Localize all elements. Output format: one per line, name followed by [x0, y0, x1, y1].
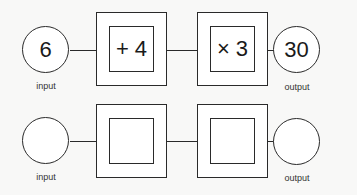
input-circle[interactable]: [22, 117, 69, 164]
output-circle: 30: [273, 26, 320, 73]
output-label: output: [267, 82, 327, 92]
operation-value: + 4: [109, 26, 154, 72]
operation-box-1: [96, 104, 167, 178]
operation-value[interactable]: [109, 118, 154, 164]
operation-value[interactable]: [210, 118, 255, 164]
connector-line: [70, 141, 97, 142]
output-label: output: [267, 173, 327, 183]
operation-box-1: + 4: [96, 12, 167, 86]
connector-line: [70, 50, 97, 51]
operation-box-2: × 3: [197, 12, 268, 86]
input-circle: 6: [22, 26, 69, 73]
operation-box-2: [197, 104, 268, 178]
input-label: input: [16, 81, 76, 91]
output-circle[interactable]: [273, 118, 320, 165]
input-label: input: [16, 172, 76, 182]
connector-line: [166, 50, 198, 51]
operation-value: × 3: [210, 26, 255, 72]
connector-line: [166, 141, 198, 142]
